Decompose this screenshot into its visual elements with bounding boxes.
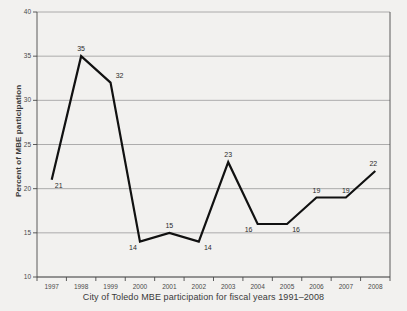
data-point-label: 16	[285, 226, 307, 233]
data-point-label: 14	[122, 244, 144, 251]
data-point-label: 15	[158, 222, 180, 229]
data-point-label: 22	[362, 160, 384, 167]
data-point-label: 21	[48, 182, 70, 189]
plot-area	[0, 0, 407, 311]
y-tick-label: 25	[15, 141, 31, 148]
x-tick-label: 2007	[331, 283, 361, 290]
x-tick-label: 1999	[96, 283, 126, 290]
x-tick-label: 1997	[37, 283, 67, 290]
data-point-label: 19	[335, 187, 357, 194]
data-series-line	[52, 56, 376, 242]
y-tick-label: 40	[15, 8, 31, 15]
x-tick-label: 2004	[243, 283, 273, 290]
x-tick-label: 2002	[184, 283, 214, 290]
x-tick-label: 2003	[213, 283, 243, 290]
x-axis-title: City of Toledo MBE participation for fis…	[0, 292, 407, 302]
x-tick-label: 2001	[154, 283, 184, 290]
y-tick-label: 20	[15, 185, 31, 192]
axis-ticks	[33, 12, 390, 281]
data-point-label: 35	[70, 45, 92, 52]
y-tick-label: 30	[15, 96, 31, 103]
y-tick-label: 15	[15, 229, 31, 236]
x-tick-label: 2005	[272, 283, 302, 290]
data-point-label: 14	[197, 244, 219, 251]
x-tick-label: 2008	[360, 283, 390, 290]
y-tick-label: 35	[15, 52, 31, 59]
data-point-label: 16	[238, 226, 260, 233]
data-point-label: 23	[217, 151, 239, 158]
x-tick-label: 2006	[301, 283, 331, 290]
line-chart: Percent of MBE participation 10152025303…	[0, 0, 407, 311]
data-point-label: 32	[109, 72, 131, 79]
y-tick-label: 10	[15, 273, 31, 280]
x-tick-label: 1998	[66, 283, 96, 290]
data-point-label: 19	[305, 187, 327, 194]
x-tick-label: 2000	[125, 283, 155, 290]
